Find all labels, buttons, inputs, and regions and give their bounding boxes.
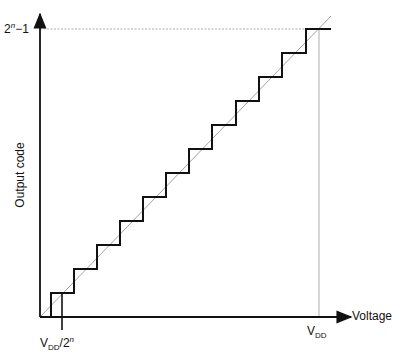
vdd-label: VDD — [307, 324, 327, 340]
staircase-curve — [51, 29, 331, 317]
full-scale-code-label: 2n−1 — [4, 21, 29, 36]
y-axis-label: Output code — [13, 142, 27, 207]
adc-transfer-diagram: 2n−1 Output code Voltage VDD VDD/2n — [0, 0, 410, 362]
x-axis-label: Voltage — [352, 309, 392, 323]
diagram-canvas — [0, 0, 410, 362]
ideal-line — [40, 16, 331, 317]
lsb-voltage-label: VDD/2n — [40, 335, 74, 352]
